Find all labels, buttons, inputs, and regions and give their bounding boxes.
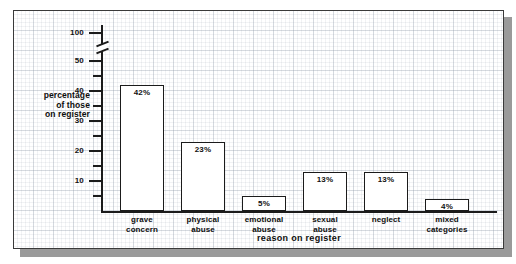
y-tick-major <box>89 90 103 92</box>
category-label-line: abuse <box>173 225 233 235</box>
y-tick-major <box>89 32 103 34</box>
bar: 13% <box>364 172 408 211</box>
bar: 42% <box>120 85 164 211</box>
bar: 13% <box>303 172 347 211</box>
y-tick-minor <box>93 195 103 197</box>
category-label-line: categories <box>417 225 477 235</box>
y-tick-label: 50 <box>40 56 84 65</box>
y-axis-title-line: on register <box>14 110 90 120</box>
y-tick-label: 100 <box>40 28 84 37</box>
category-label-line: mixed <box>417 215 477 225</box>
category-label-line: physical <box>173 215 233 225</box>
category-label-line: abuse <box>234 225 294 235</box>
category-label: physicalabuse <box>173 215 233 234</box>
graph-paper-sheet: 1020304050100 percentageof thoseon regis… <box>13 10 504 249</box>
category-label: graveconcern <box>112 215 172 234</box>
y-tick-major <box>89 150 103 152</box>
y-tick-minor <box>93 135 103 137</box>
category-label: neglect <box>356 215 416 225</box>
y-tick-label: 20 <box>40 146 84 155</box>
category-label-line: abuse <box>295 225 355 235</box>
chart-screenshot: 1020304050100 percentageof thoseon regis… <box>0 0 516 264</box>
y-tick-minor <box>93 75 103 77</box>
y-tick-major <box>89 180 103 182</box>
category-label: sexualabuse <box>295 215 355 234</box>
y-tick-major <box>89 60 103 62</box>
bar: 5% <box>242 196 286 211</box>
category-label-line: concern <box>112 225 172 235</box>
x-axis-line <box>101 211 497 213</box>
bar-value-label: 4% <box>426 202 468 211</box>
bar: 4% <box>425 199 469 211</box>
y-axis-title: percentageof thoseon register <box>14 91 90 120</box>
y-tick-minor <box>93 105 103 107</box>
y-tick-major <box>89 120 103 122</box>
bar: 23% <box>181 142 225 211</box>
bar-value-label: 13% <box>365 175 407 184</box>
bar-value-label: 23% <box>182 145 224 154</box>
y-axis-line <box>101 25 103 213</box>
y-tick-minor <box>93 165 103 167</box>
category-label-line: grave <box>112 215 172 225</box>
category-label: mixedcategories <box>417 215 477 234</box>
category-label-line: neglect <box>356 215 416 225</box>
category-label-line: sexual <box>295 215 355 225</box>
category-label: emotionalabuse <box>234 215 294 234</box>
category-label-line: emotional <box>234 215 294 225</box>
y-tick-label: 10 <box>40 176 84 185</box>
bar-value-label: 5% <box>243 199 285 208</box>
bar-value-label: 13% <box>304 175 346 184</box>
x-axis-title: reason on register <box>101 233 497 243</box>
bar-value-label: 42% <box>121 88 163 97</box>
